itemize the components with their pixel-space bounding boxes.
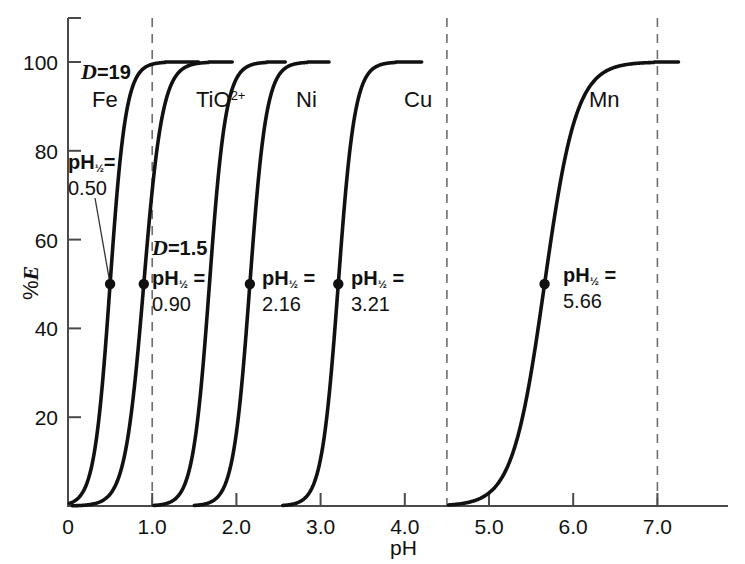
annotation-ph-half-mn: pH½ = 5.66 (563, 265, 616, 312)
ph-half-sub-ti: ½ (179, 278, 188, 290)
ph-prefix-cu: pH (351, 267, 378, 289)
y-tick-label-80: 80 (35, 140, 58, 163)
x-tick-label-6: 6.0 (559, 515, 588, 538)
y-axis-title-e: E (18, 266, 43, 281)
leader-lines (95, 198, 110, 284)
y-tick-label-40: 40 (35, 317, 58, 340)
annotation-ph-half-ni: pH½ = 2.16 (262, 268, 315, 315)
d-value-fe: =19 (97, 61, 131, 83)
y-axis-title-pct: % (18, 280, 43, 300)
ph-prefix-ti: pH (152, 267, 179, 289)
ph-half-marker-Mn (539, 279, 549, 289)
ph-eq-ti: = (188, 267, 205, 289)
ph-half-sub-ni: ½ (289, 278, 298, 290)
y-tick-label-60: 60 (35, 229, 58, 252)
ph-eq-cu: = (387, 267, 404, 289)
curve-label-fe: Fe (92, 88, 118, 111)
x-tick-label-4: 4.0 (390, 515, 419, 538)
annotation-ph-half-cu: pH½ = 3.21 (351, 268, 404, 315)
ph-half-value-fe: 0.50 (68, 177, 107, 199)
x-tick-label-2: 2.0 (222, 515, 251, 538)
ph-prefix-mn: pH (563, 264, 590, 286)
annotation-ph-half-ti: pH½ = 0.90 (152, 268, 205, 315)
ti-label-sup: 2+ (231, 88, 246, 103)
x-tick-label-7: 7.0 (643, 515, 672, 538)
ti-label-base: TiO (196, 87, 231, 112)
d-symbol-fe: D (81, 59, 97, 84)
curve-label-mn: Mn (589, 88, 620, 111)
x-tick-label-5: 5.0 (474, 515, 503, 538)
annotation-d-fe: D=19 (81, 60, 131, 83)
ph-half-sub-fe: ½ (95, 162, 104, 174)
ph-prefix-fe: pH (68, 151, 95, 173)
ph-half-value-ni: 2.16 (262, 293, 301, 315)
ph-half-sub-mn: ½ (590, 275, 599, 287)
ph-prefix-ni: pH (262, 267, 289, 289)
y-tick-label-100: 100 (23, 51, 58, 74)
ph-half-marker-Ni (245, 279, 255, 289)
x-tick-label-3: 3.0 (306, 515, 335, 538)
annotation-ph-half-fe: pH½= 0.50 (68, 152, 116, 199)
ph-half-marker-Fe (105, 279, 115, 289)
chart-figure: 2040608010001.02.03.04.05.06.07.0 %E pH … (0, 0, 745, 564)
ph-eq-ni: = (298, 267, 315, 289)
ph-eq-mn: = (599, 264, 616, 286)
curve-label-ni: Ni (296, 88, 317, 111)
x-tick-label-0: 0 (62, 515, 74, 538)
ph-half-value-ti: 0.90 (152, 293, 191, 315)
ph-half-marker-Ti (139, 279, 149, 289)
ph-half-sub-cu: ½ (378, 278, 387, 290)
x-axis-title: pH (390, 536, 417, 560)
curve-label-cu: Cu (404, 88, 432, 111)
y-tick-label-20: 20 (35, 406, 58, 429)
axis-ticks (68, 18, 657, 506)
ph-half-value-cu: 3.21 (351, 293, 390, 315)
d-value-ti: =1.5 (168, 237, 207, 259)
x-tick-label-1: 1.0 (138, 515, 167, 538)
ph-eq-fe: = (104, 151, 116, 173)
annotation-d-ti: D=1.5 (152, 236, 207, 259)
ph-half-value-mn: 5.66 (563, 290, 602, 312)
y-axis-title: %E (18, 266, 44, 300)
leader-line-fe (95, 198, 110, 284)
ph-half-marker-Cu (333, 279, 343, 289)
curve-label-ti: TiO2+ (196, 88, 245, 111)
d-symbol-ti: D (152, 235, 168, 260)
